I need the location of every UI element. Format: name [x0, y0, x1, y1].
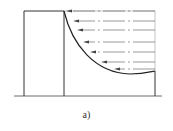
arrowhead-icon — [83, 41, 89, 44]
figure-caption: a) — [0, 109, 173, 120]
arrowhead-icon — [77, 29, 83, 32]
arrowhead-icon — [90, 51, 96, 54]
flow-arrows — [66, 10, 155, 71]
arrowhead-icon — [73, 20, 79, 23]
left-block — [24, 11, 64, 96]
arrowhead-icon — [66, 10, 72, 13]
arrowhead-icon — [114, 68, 120, 71]
arrowhead-icon — [101, 61, 107, 64]
